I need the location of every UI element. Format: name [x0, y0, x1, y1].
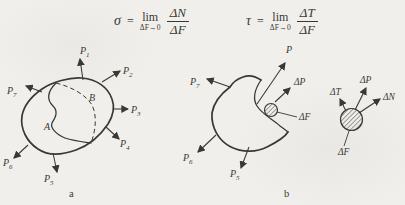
textbook-figure-stress-definition: σ = lim ΔF→0 ΔN ΔF τ = lim ΔF→0 ΔT ΔF — [0, 0, 405, 205]
diagram-b: P ΔP ΔF P7 P6 P5 b — [182, 44, 311, 199]
force-label-p2: P2 — [122, 65, 133, 79]
delta-p-label: ΔP — [293, 77, 306, 87]
delta-n-label: ΔN — [382, 92, 396, 102]
region-label-b: B — [89, 92, 95, 103]
force-label-p5: P5 — [229, 168, 240, 182]
delta-t-arrow — [340, 99, 346, 111]
force-label-p4: P4 — [119, 138, 130, 152]
delta-f-label: ΔF — [337, 147, 350, 157]
resultant-arrow-p — [257, 63, 285, 104]
force-label-p7: P7 — [6, 85, 17, 99]
region-label-a: A — [43, 121, 51, 132]
delta-f-label: ΔF — [298, 112, 311, 122]
force-label-p6: P6 — [2, 157, 13, 171]
resultant-label-p: P — [285, 44, 292, 55]
force-arrow-p2 — [102, 71, 120, 82]
detail-area-element: ΔP ΔT ΔN ΔF — [329, 75, 396, 157]
delta-f-leader — [344, 131, 349, 146]
diagram-a: P1 P2 P3 P4 P5 P6 P7 A B a — [2, 45, 141, 199]
force-label-p3: P3 — [130, 104, 141, 118]
force-arrow-p6 — [14, 145, 28, 158]
force-label-p5: P5 — [43, 173, 54, 187]
delta-p-arrow — [275, 88, 290, 102]
delta-p-arrow — [355, 88, 366, 110]
area-element-circle — [341, 109, 363, 131]
caption-a: a — [69, 188, 74, 199]
force-arrow-p7 — [26, 86, 42, 92]
delta-n-arrow — [359, 99, 380, 113]
force-arrow-p5 — [53, 153, 57, 172]
force-label-p6: P6 — [182, 152, 193, 166]
area-element-delta-f — [265, 104, 278, 117]
force-label-p1: P1 — [79, 45, 90, 59]
delta-p-label: ΔP — [359, 75, 372, 85]
delta-t-label: ΔT — [329, 87, 342, 97]
force-arrow-p4 — [106, 127, 119, 139]
section-cut-line — [49, 83, 91, 143]
caption-b: b — [284, 188, 289, 199]
force-arrow-p7 — [207, 79, 230, 87]
figure-canvas: P1 P2 P3 P4 P5 P6 P7 A B a P ΔP ΔF P7 — [0, 0, 405, 205]
force-label-p7: P7 — [189, 76, 200, 90]
force-arrow-p6 — [198, 135, 216, 152]
force-arrow-p1 — [80, 59, 83, 80]
delta-f-leader — [277, 112, 297, 117]
